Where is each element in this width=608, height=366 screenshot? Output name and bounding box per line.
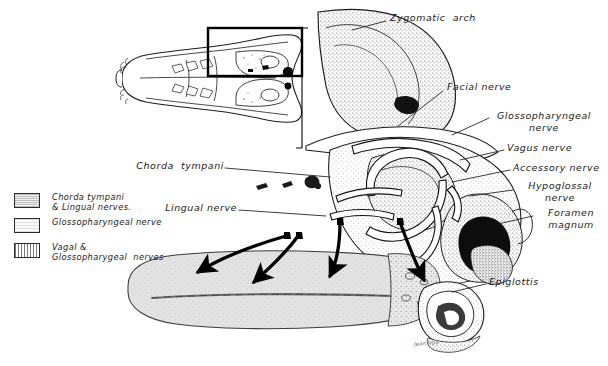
label-epiglottis: Epiglottis: [489, 276, 539, 288]
label-glossopharyngeal-nerve: Glossopharyngeal nerve: [488, 110, 600, 133]
legend-entry-chorda-tympani-lingual: Chorda tympani & Lingual nerves.: [14, 193, 131, 212]
legend-entry-glossopharyngeal: Glossopharyngeal nerve: [14, 218, 162, 233]
label-vagus-nerve: Vagus nerve: [507, 142, 572, 154]
label-zygomatic-arch: Zygomatic arch: [390, 12, 476, 24]
legend-label-glossopharyngeal: Glossopharyngeal nerve: [52, 218, 162, 228]
label-lingual-nerve: Lingual nerve: [155, 202, 237, 214]
label-facial-nerve: Facial nerve: [447, 81, 511, 93]
label-foramen-magnum: Foramen magnum: [534, 207, 608, 230]
legend-label-vagal-glossopharyngeal: Vagal & Glossopharygeal nerves: [52, 243, 164, 262]
legend-swatch-vagal-glossopharyngeal: [14, 243, 40, 258]
nerve-territory-legend: Chorda tympani & Lingual nerves. Glossop…: [14, 193, 164, 259]
legend-entry-vagal-glossopharyngeal: Vagal & Glossopharygeal nerves: [14, 243, 164, 262]
legend-label-chorda-tympani-lingual: Chorda tympani & Lingual nerves.: [52, 193, 131, 212]
label-hypoglossal-nerve: Hypoglossal nerve: [514, 180, 606, 203]
label-accessory-nerve: Accessory nerve: [513, 162, 600, 174]
label-chorda-tympani: Chorda tympani: [128, 160, 224, 172]
legend-swatch-glossopharyngeal: [14, 218, 40, 233]
legend-swatch-chorda-tympani-lingual: [14, 193, 40, 208]
